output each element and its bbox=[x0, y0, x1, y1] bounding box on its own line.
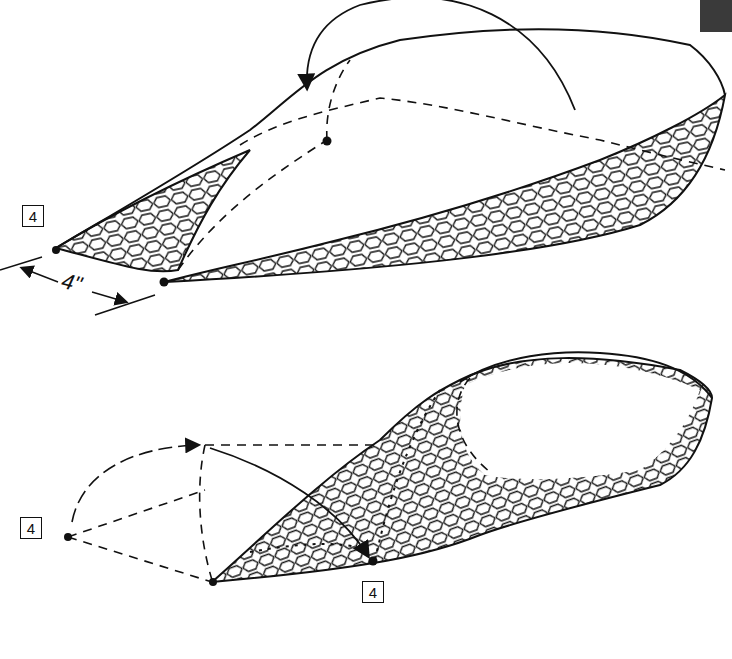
dimension-extension-right bbox=[95, 295, 155, 315]
top-mesh-flap bbox=[56, 150, 250, 271]
dimension-arrow-right bbox=[92, 292, 126, 302]
dimension-arrow-left bbox=[22, 268, 58, 282]
bottom-dashed-to-bottom-point bbox=[68, 537, 212, 582]
top-figure bbox=[0, 0, 725, 315]
scan-corner-mark bbox=[700, 0, 732, 32]
diagram-svg bbox=[0, 0, 732, 659]
top-step-badge: 4 bbox=[22, 205, 44, 227]
diagram-canvas: 4 4" 4 4 bbox=[0, 0, 732, 659]
bottom-arc-arrow-up bbox=[72, 445, 198, 522]
top-center-dot bbox=[323, 137, 332, 146]
top-fold-arrow bbox=[307, 0, 575, 110]
bottom-bottom-point-dot bbox=[209, 578, 217, 586]
bottom-left-step-badge: 4 bbox=[20, 517, 42, 539]
bottom-dashed-to-left-point bbox=[68, 490, 205, 537]
top-mesh-body bbox=[165, 95, 725, 282]
top-dashed-vertical bbox=[327, 60, 350, 140]
top-bottom-point-dot bbox=[160, 278, 169, 287]
bottom-left-point-dot bbox=[64, 533, 72, 541]
bottom-step-badge: 4 bbox=[362, 581, 384, 603]
dimension-extension-left bbox=[0, 257, 42, 270]
bottom-dashed-left-vertical bbox=[200, 445, 212, 580]
bottom-figure bbox=[64, 352, 712, 586]
bottom-target-dot bbox=[369, 557, 378, 566]
top-left-point-dot bbox=[52, 246, 60, 254]
